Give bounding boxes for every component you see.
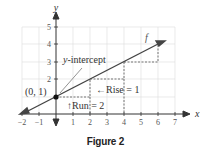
y-intercept-point — [53, 94, 58, 99]
rise-label: ←Rise = 1 — [96, 84, 139, 95]
svg-text:−2: −2 — [18, 118, 27, 127]
svg-text:3: 3 — [47, 58, 51, 67]
svg-text:7: 7 — [173, 118, 177, 127]
svg-text:−1: −1 — [35, 118, 44, 127]
x-axis-label: x — [194, 108, 200, 119]
svg-text:1: 1 — [71, 118, 75, 127]
svg-text:2: 2 — [88, 118, 92, 127]
point-label: (0, 1) — [25, 86, 47, 98]
svg-text:4: 4 — [122, 118, 126, 127]
svg-text:5: 5 — [47, 23, 51, 32]
svg-text:6: 6 — [156, 118, 160, 127]
axes — [20, 12, 190, 126]
figure-caption: Figure 2 — [0, 136, 211, 147]
run-label: ↑Run = 2 — [67, 100, 104, 111]
function-label: f — [145, 32, 149, 43]
y-intercept-label: y-intercept — [62, 54, 106, 65]
svg-text:5: 5 — [139, 118, 143, 127]
svg-text:3: 3 — [105, 118, 109, 127]
svg-text:4: 4 — [47, 40, 51, 49]
svg-text:2: 2 — [47, 75, 51, 84]
graph: −2−1 123 4567 543 2 y x f (0, 1) y-inter… — [0, 0, 211, 154]
y-axis-label: y — [53, 2, 59, 13]
